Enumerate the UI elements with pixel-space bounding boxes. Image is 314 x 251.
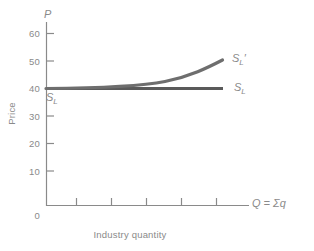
chart-canvas (0, 0, 314, 251)
y-ticklabel-0: 0 (16, 210, 40, 221)
x-axis-title: Industry quantity (0, 229, 260, 240)
y-ticklabel-10: 10 (16, 166, 40, 177)
curve-label-sl-prime-mark: ′ (244, 52, 246, 64)
y-ticklabel-30: 30 (16, 111, 40, 122)
curve-label-sl-prime: SL′ (232, 52, 246, 67)
series-curve-sl-prime (46, 60, 223, 89)
curve-label-sl-right: SL (234, 81, 246, 96)
curve-label-sl-left: SL (46, 91, 58, 106)
chart-figure: 60 50 40 30 20 10 0 P Q = Σq Price Indus… (0, 0, 314, 251)
y-ticklabel-60: 60 (16, 28, 40, 39)
curve-label-sl-right-sub: L (241, 87, 245, 96)
y-ticklabel-40: 40 (16, 83, 40, 94)
y-ticklabel-50: 50 (16, 56, 40, 67)
y-axis-title: Price (6, 91, 17, 137)
y-ticklabel-20: 20 (16, 138, 40, 149)
curve-label-sl-left-sub: L (53, 97, 57, 106)
y-axis-symbol: P (44, 8, 51, 20)
x-axis-symbol: Q = Σq (252, 197, 286, 209)
x-axis-ticks (77, 198, 217, 206)
